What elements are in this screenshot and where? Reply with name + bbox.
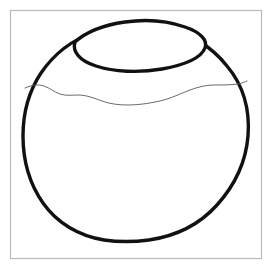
figure-container (0, 0, 273, 274)
vessel-rim-ellipse (74, 21, 205, 72)
vessel-line-drawing (0, 0, 273, 274)
